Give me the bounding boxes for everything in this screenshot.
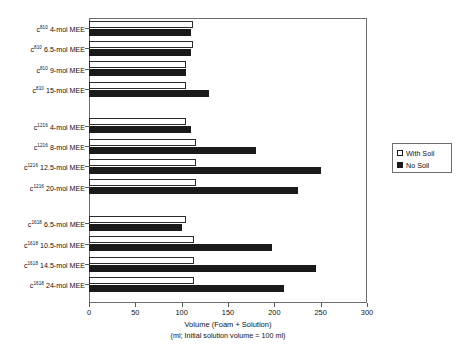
- category-axis-tick: [85, 48, 90, 49]
- category-label: c1216 8-mol MEE: [34, 142, 85, 152]
- bar-no-soil: [89, 244, 272, 251]
- bar-no-soil: [89, 265, 316, 272]
- x-axis-tick: [228, 303, 229, 307]
- x-axis-tick-label: 0: [74, 308, 104, 317]
- bar-with-soil: [89, 159, 196, 166]
- category-axis-tick: [85, 187, 90, 188]
- x-axis-tick: [274, 303, 275, 307]
- x-axis-tick: [367, 303, 368, 307]
- legend-label-with-soil: With Soil: [406, 149, 434, 158]
- category-label: c1216 20-mol MEE: [30, 183, 85, 193]
- x-axis-tick-label: 50: [120, 308, 150, 317]
- x-axis-title: Volume (Foam + Solution): [89, 320, 367, 329]
- category-label: c1216 12.5-mol MEE: [24, 162, 85, 172]
- bar-no-soil: [89, 90, 209, 97]
- category-axis-tick: [85, 166, 90, 167]
- category-label: c1618 24-mol MEE: [30, 280, 85, 290]
- category-axis-tick: [85, 89, 90, 90]
- category-label: c1618 14.5-mol MEE: [24, 260, 85, 270]
- category-axis-tick: [85, 264, 90, 265]
- category-label: c1216 4-mol MEE: [34, 122, 85, 132]
- x-axis-tick-label: 300: [352, 308, 382, 317]
- legend-item-with-soil: With Soil: [397, 147, 451, 159]
- legend-label-no-soil: No Soil: [406, 161, 429, 170]
- x-axis-tick: [321, 303, 322, 307]
- bar-no-soil: [89, 285, 284, 292]
- bar-with-soil: [89, 236, 194, 243]
- x-axis-tick: [89, 303, 90, 307]
- legend-item-no-soil: No Soil: [397, 159, 451, 171]
- bar-no-soil: [89, 49, 191, 56]
- bar-no-soil: [89, 29, 191, 36]
- category-axis-tick: [85, 69, 90, 70]
- x-axis-tick: [182, 303, 183, 307]
- bar-with-soil: [89, 277, 194, 284]
- bar-no-soil: [89, 147, 256, 154]
- bar-chart: c810 4-mol MEEc810 6.5-mol MEEc810 9-mol…: [0, 0, 461, 350]
- category-label: c810 6.5-mol MEE: [31, 44, 85, 54]
- category-axis-tick: [85, 28, 90, 29]
- legend-swatch-open-square-icon: [397, 150, 403, 156]
- x-axis-tick-labels: 050100150200250300: [0, 308, 461, 320]
- bar-with-soil: [89, 82, 186, 89]
- category-axis-labels: c810 4-mol MEEc810 6.5-mol MEEc810 9-mol…: [0, 18, 88, 303]
- bar-no-soil: [89, 187, 298, 194]
- category-axis-tick: [85, 126, 90, 127]
- legend: With Soil No Soil: [392, 143, 452, 173]
- x-axis-tick-label: 100: [167, 308, 197, 317]
- category-axis-tick: [85, 223, 90, 224]
- x-axis-tick-label: 150: [213, 308, 243, 317]
- category-label: c810 15-mol MEE: [32, 85, 85, 95]
- category-label: c1618 10.5-mol MEE: [24, 240, 85, 250]
- bar-with-soil: [89, 61, 186, 68]
- bar-with-soil: [89, 179, 196, 186]
- x-axis-tick-label: 250: [306, 308, 336, 317]
- bar-no-soil: [89, 126, 191, 133]
- bar-no-soil: [89, 69, 186, 76]
- category-label: c810 9-mol MEE: [36, 65, 85, 75]
- legend-swatch-filled-square-icon: [397, 162, 403, 168]
- category-label: c810 4-mol MEE: [36, 24, 85, 34]
- bar-with-soil: [89, 139, 196, 146]
- category-axis-tick: [85, 146, 90, 147]
- x-axis-tick: [135, 303, 136, 307]
- bar-with-soil: [89, 41, 193, 48]
- x-axis-subtitle: (ml; Initial solution volume = 100 ml): [89, 331, 367, 340]
- x-axis-tick-label: 200: [259, 308, 289, 317]
- bar-no-soil: [89, 167, 321, 174]
- bar-no-soil: [89, 224, 182, 231]
- category-axis-tick: [85, 244, 90, 245]
- bar-with-soil: [89, 216, 186, 223]
- bar-with-soil: [89, 118, 186, 125]
- bar-with-soil: [89, 21, 193, 28]
- bar-with-soil: [89, 257, 194, 264]
- category-label: c1618 6.5-mol MEE: [28, 219, 85, 229]
- category-axis-tick: [85, 284, 90, 285]
